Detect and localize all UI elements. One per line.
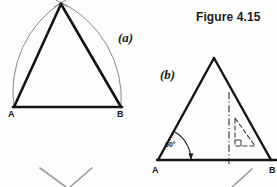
figure-page: Figure 4.15 (a) (b) A B A B 60° <box>0 0 277 187</box>
vertex-label-a-diagram-a: A <box>8 109 15 119</box>
cut-off-fragments-group <box>40 168 252 187</box>
fragment-left-1 <box>40 168 66 187</box>
part-label-b: (b) <box>160 67 175 83</box>
vertex-label-b-diagram-b: B <box>269 165 276 175</box>
triangle-b-side-right <box>214 58 271 160</box>
triangle-a-side-left <box>14 4 61 107</box>
fragment-left-2 <box>70 168 92 187</box>
set-square-right-angle-mark <box>235 140 241 146</box>
angle-label-60-degrees: 60° <box>165 141 176 148</box>
diagram-a-group <box>13 0 122 107</box>
figure-title: Figure 4.15 <box>196 10 260 24</box>
angle-arc-60-degrees <box>175 132 191 160</box>
part-label-a: (a) <box>118 30 133 46</box>
vertex-label-a-diagram-b: A <box>152 165 159 175</box>
figure-drawing-canvas <box>0 0 277 187</box>
vertex-label-b-diagram-a: B <box>117 109 124 119</box>
set-square-symbol <box>235 118 255 146</box>
fragment-right-1 <box>232 169 252 187</box>
